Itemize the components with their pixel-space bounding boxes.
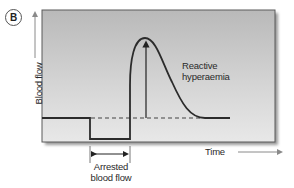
reactive-hyperaemia-label: Reactive hyperaemia — [182, 60, 242, 82]
reactive-hyperaemia-figure: B Blood flow Reactive hyperaemia Arreste… — [0, 0, 294, 188]
figure-graphics — [0, 0, 294, 188]
y-axis-label: Blood flow — [33, 59, 44, 109]
panel-label-badge: B — [5, 9, 22, 26]
bracket-label-line-2: blood flow — [84, 172, 138, 183]
bracket-label-line-1: Arrested — [84, 161, 138, 172]
arrested-blood-flow-label: Arrested blood flow — [84, 161, 138, 183]
annotation-line-1: Reactive — [182, 60, 242, 71]
x-axis-label: Time — [205, 146, 225, 157]
annotation-line-2: hyperaemia — [182, 71, 242, 82]
